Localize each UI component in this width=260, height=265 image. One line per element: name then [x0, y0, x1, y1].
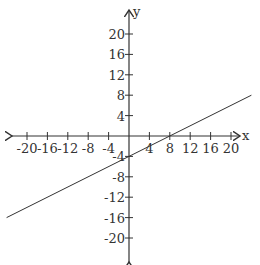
y-tick-label: -20 [104, 231, 125, 246]
y-tick-label: 8 [117, 88, 125, 103]
y-tick-label: -16 [104, 211, 125, 226]
x-tick-label: 16 [202, 141, 219, 156]
x-tick-label: -16 [37, 141, 58, 156]
coordinate-plane: x y -20-16-12-8-448121620 20161284-4-8-1… [0, 0, 260, 265]
x-tick-label: 12 [182, 141, 199, 156]
x-tick-label: 4 [145, 141, 153, 156]
x-tick-label: -20 [17, 141, 38, 156]
x-tick-label: -12 [57, 141, 78, 156]
y-tick-label: 4 [117, 109, 125, 124]
y-tick-label: -12 [104, 190, 125, 205]
y-tick-label: -8 [112, 170, 125, 185]
y-axis-label: y [132, 4, 141, 19]
y-tick-label: 12 [108, 68, 125, 83]
y-tick-label: 16 [108, 47, 125, 62]
x-axis-label: x [242, 128, 250, 143]
x-tick-label: -8 [82, 141, 95, 156]
x-tick-label: 8 [166, 141, 174, 156]
x-tick-label: 20 [223, 141, 240, 156]
y-tick-label: -4 [112, 149, 125, 164]
y-tick-label: 20 [108, 27, 125, 42]
